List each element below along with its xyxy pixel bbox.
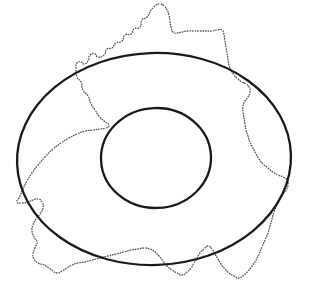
diagram-svg [0,0,309,287]
canvas-background [0,0,309,287]
figure-canvas [0,0,309,287]
